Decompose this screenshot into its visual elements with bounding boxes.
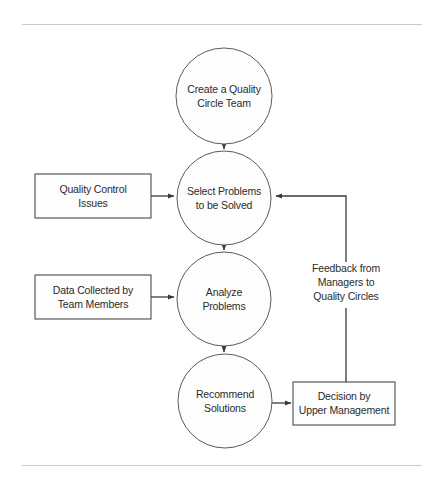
- node-label-line1: Decision by: [318, 390, 372, 402]
- node-data-collected-by-team-members[interactable]: Data Collected by Team Members: [35, 275, 151, 319]
- annotation-feedback-from-managers: Feedback from Managers to Quality Circle…: [300, 262, 392, 308]
- node-label-line2: to be Solved: [196, 199, 253, 211]
- node-label-line2: Solutions: [204, 402, 246, 414]
- node-label-line1: Create a Quality: [187, 83, 261, 95]
- node-label-line2: Team Members: [58, 298, 129, 310]
- node-label-line1: Data Collected by: [53, 284, 134, 296]
- node-recommend-solutions[interactable]: Recommend Solutions: [178, 354, 272, 448]
- node-decision-by-upper-management[interactable]: Decision by Upper Management: [293, 382, 395, 425]
- annotation-line2: Managers to: [318, 276, 375, 288]
- node-select-problems-to-be-solved[interactable]: Select Problems to be Solved: [177, 151, 271, 245]
- node-label-line1: Recommend: [196, 388, 254, 400]
- node-label-line2: Circle Team: [197, 97, 251, 109]
- flowchart-diagram: Create a Quality Circle Team Select Prob…: [0, 0, 444, 485]
- annotation-line1: Feedback from: [312, 262, 380, 274]
- node-label-line1: Select Problems: [187, 185, 261, 197]
- node-label-line2: Upper Management: [299, 404, 390, 416]
- node-label-line2: Issues: [78, 197, 107, 209]
- node-create-quality-circle-team[interactable]: Create a Quality Circle Team: [176, 48, 272, 144]
- annotation-line3: Quality Circles: [313, 290, 378, 302]
- node-analyze-problems[interactable]: Analyze Problems: [177, 252, 271, 346]
- node-label-line2: Problems: [202, 300, 245, 312]
- node-quality-control-issues[interactable]: Quality Control Issues: [35, 174, 151, 218]
- node-label-line1: Analyze: [206, 286, 243, 298]
- node-label-line1: Quality Control: [59, 183, 126, 195]
